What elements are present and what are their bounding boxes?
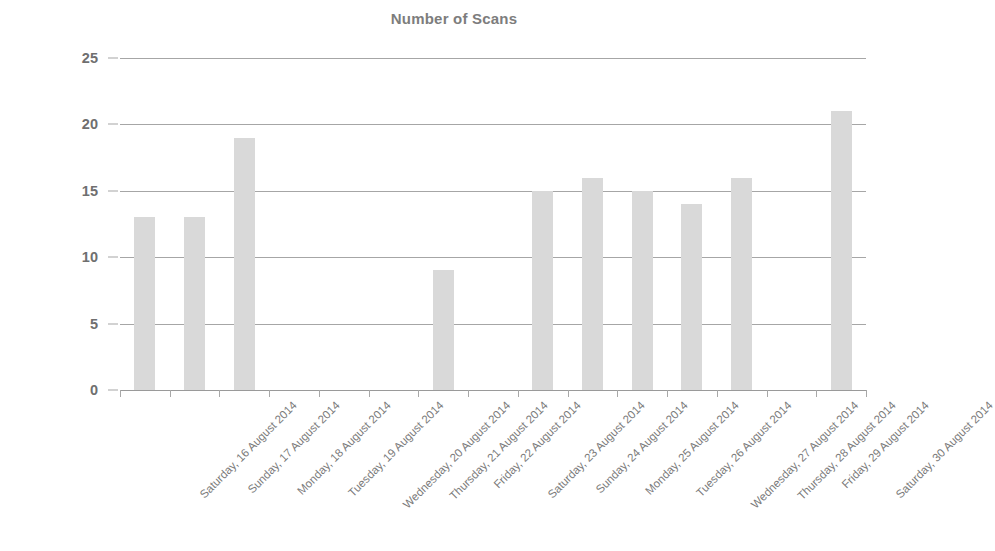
bar[interactable] <box>134 217 155 390</box>
bar-series <box>120 58 866 390</box>
bar[interactable] <box>433 270 454 390</box>
y-tick-label-25: 25 <box>52 50 98 66</box>
bar[interactable] <box>184 217 205 390</box>
bar[interactable] <box>831 111 852 390</box>
bar[interactable] <box>234 138 255 390</box>
x-tick-mark <box>866 390 867 397</box>
y-tick-mark-25 <box>108 58 118 59</box>
y-tick-mark-20 <box>108 124 118 125</box>
bar[interactable] <box>681 204 702 390</box>
x-tick-mark <box>170 390 171 397</box>
x-tick-mark <box>269 390 270 397</box>
x-tick-label: Monday, 25 August 2014 <box>643 399 741 497</box>
x-tick-mark <box>319 390 320 397</box>
x-tick-mark <box>617 390 618 397</box>
y-tick-mark-10 <box>108 257 118 258</box>
y-tick-label-0: 0 <box>52 382 98 398</box>
chart-title: Number of Scans <box>0 10 908 27</box>
y-tick-mark-15 <box>108 190 118 191</box>
y-axis-ticks <box>108 58 120 390</box>
x-tick-mark <box>667 390 668 397</box>
x-tick-label: Sunday, 17 August 2014 <box>245 399 342 496</box>
x-axis-line <box>120 390 866 391</box>
y-tick-mark-0 <box>108 390 118 391</box>
y-axis-labels: 0510152025 <box>52 58 98 390</box>
x-tick-mark <box>717 390 718 397</box>
x-tick-label: Sunday, 24 August 2014 <box>593 399 690 496</box>
bar[interactable] <box>532 191 553 390</box>
y-tick-mark-5 <box>108 323 118 324</box>
x-tick-mark <box>219 390 220 397</box>
x-tick-label: Monday, 18 August 2014 <box>295 399 393 497</box>
x-tick-mark <box>816 390 817 397</box>
bar[interactable] <box>731 178 752 390</box>
x-tick-mark <box>418 390 419 397</box>
x-tick-mark <box>120 390 121 397</box>
x-tick-mark <box>568 390 569 397</box>
bar[interactable] <box>582 178 603 390</box>
x-tick-mark <box>518 390 519 397</box>
y-tick-label-15: 15 <box>52 183 98 199</box>
y-tick-label-5: 5 <box>52 316 98 332</box>
x-tick-mark <box>369 390 370 397</box>
bar[interactable] <box>632 191 653 390</box>
y-tick-label-10: 10 <box>52 249 98 265</box>
plot-area <box>120 58 866 390</box>
x-tick-mark <box>468 390 469 397</box>
x-tick-mark <box>767 390 768 397</box>
y-tick-label-20: 20 <box>52 116 98 132</box>
